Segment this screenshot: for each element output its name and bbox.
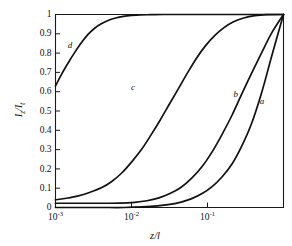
semilog-line-chart: abcd 00.10.20.30.40.50.60.70.80.91 10-31…: [0, 0, 292, 246]
y-axis-ticks: [56, 15, 61, 208]
y-tick-label: 0.7: [40, 67, 52, 77]
y-axis-title: Iz/It: [13, 102, 27, 119]
curve-b: [56, 15, 284, 204]
x-tick-label: 10-3: [48, 210, 64, 222]
y-axis-title-text: Iz/It: [13, 102, 27, 119]
y-tick-label: 1: [47, 9, 52, 19]
curve-label-c: c: [131, 82, 135, 92]
axes-frame: [56, 15, 284, 208]
x-tick-label: 10-1: [200, 210, 215, 222]
y-tick-label: 0.1: [40, 183, 52, 193]
y-axis-title-den-sub: t: [19, 102, 27, 105]
y-tick-labels: 00.10.20.30.40.50.60.70.80.91: [40, 9, 52, 212]
y-tick-label: 0.4: [40, 125, 52, 135]
x-axis-title-den: l: [157, 230, 160, 241]
curve-label-a: a: [260, 96, 265, 106]
figure-container: abcd 00.10.20.30.40.50.60.70.80.91 10-31…: [0, 0, 292, 246]
y-tick-label: 0.9: [40, 28, 52, 38]
y-tick-label: 0.6: [40, 86, 52, 96]
x-tick-labels: 10-310-210-1: [48, 210, 215, 222]
y-tick-label: 0.5: [40, 106, 52, 116]
plot-frame: [56, 15, 284, 208]
curve-a: [56, 15, 284, 208]
x-tick-label: 10-2: [124, 210, 139, 222]
curve-d: [56, 14, 284, 85]
x-axis-title: z/l: [149, 230, 160, 241]
data-curves: [56, 14, 284, 207]
y-tick-label: 0.2: [40, 164, 52, 174]
y-tick-label: 0.8: [40, 48, 52, 58]
curve-labels: abcd: [68, 40, 265, 106]
y-tick-label: 0.3: [40, 144, 52, 154]
curve-label-b: b: [233, 89, 238, 99]
x-axis-title-text: z/l: [149, 230, 160, 241]
curve-label-d: d: [68, 40, 73, 50]
curve-c: [56, 15, 284, 200]
